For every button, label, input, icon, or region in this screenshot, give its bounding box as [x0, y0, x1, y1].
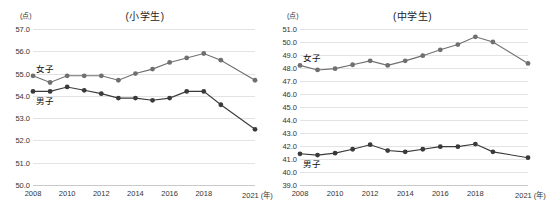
- y-axis-tick-label: 45.0: [282, 103, 297, 112]
- data-point-男子: [455, 144, 460, 149]
- y-axis-tick-label: 53.0: [15, 114, 30, 123]
- series-label-joshi-elementary: 女子: [36, 62, 54, 74]
- data-point-男子: [65, 85, 70, 90]
- data-point-女子: [385, 63, 390, 68]
- data-point-男子: [368, 142, 373, 147]
- x-axis-tick-label: 2014: [127, 189, 144, 198]
- data-point-女子: [315, 68, 320, 73]
- data-point-男子: [116, 96, 121, 101]
- x-axis-tick-label: 2010: [327, 189, 344, 198]
- chart-title-junior-high: (中学生): [270, 8, 539, 23]
- gridline: [300, 185, 528, 186]
- data-point-女子: [201, 51, 206, 56]
- x-axis-tick-label: 2008: [292, 189, 309, 198]
- x-axis-tick-label: 2018: [195, 189, 212, 198]
- y-axis-tick-label: 44.0: [282, 116, 297, 125]
- series-line-女子: [33, 54, 255, 83]
- data-point-男子: [201, 89, 206, 94]
- x-axis-tick-label: 2016: [432, 189, 449, 198]
- data-point-女子: [455, 42, 460, 47]
- y-axis-tick-label: 40.0: [282, 168, 297, 177]
- data-point-女子: [218, 58, 223, 63]
- x-axis-tick-label: 2014: [397, 189, 414, 198]
- data-point-男子: [491, 149, 496, 154]
- series-lines-junior-high: [300, 29, 528, 185]
- data-point-女子: [298, 63, 303, 68]
- data-point-女子: [491, 40, 496, 45]
- data-point-男子: [48, 89, 53, 94]
- data-point-女子: [438, 47, 443, 52]
- y-axis-unit-elementary: (点): [20, 10, 32, 20]
- plot-area-junior-high: 39.040.041.042.043.044.045.046.047.048.0…: [300, 29, 528, 185]
- gridline: [33, 185, 255, 186]
- data-point-女子: [253, 78, 258, 83]
- data-point-男子: [385, 148, 390, 153]
- data-point-女子: [133, 71, 138, 76]
- y-axis-tick-label: 52.0: [15, 136, 30, 145]
- series-lines-elementary: [33, 29, 255, 185]
- data-point-女子: [116, 78, 121, 83]
- data-point-男子: [253, 127, 258, 132]
- data-point-男子: [99, 91, 104, 96]
- data-point-男子: [473, 142, 478, 147]
- x-axis-tick-label: 2010: [59, 189, 76, 198]
- series-line-男子: [33, 87, 255, 129]
- y-axis-tick-label: 46.0: [282, 90, 297, 99]
- data-point-男子: [31, 89, 36, 94]
- y-axis-tick-label: 57.0: [15, 25, 30, 34]
- x-axis-tick-label: 2016: [161, 189, 178, 198]
- data-point-女子: [99, 73, 104, 78]
- x-axis-tick-label: 2021 (年): [515, 189, 546, 200]
- data-point-男子: [218, 102, 223, 107]
- data-point-女子: [167, 60, 172, 65]
- data-point-女子: [65, 73, 70, 78]
- data-point-女子: [420, 53, 425, 58]
- data-point-女子: [184, 56, 189, 61]
- y-axis-tick-label: 47.0: [282, 77, 297, 86]
- chart-panel-junior-high: (中学生) (点) 39.040.041.042.043.044.045.046…: [270, 0, 539, 213]
- x-axis-tick-label: 2012: [362, 189, 379, 198]
- y-axis-tick-label: 55.0: [15, 69, 30, 78]
- data-point-女子: [333, 66, 338, 71]
- y-axis-tick-label: 51.0: [282, 25, 297, 34]
- x-axis-tick-label: 2018: [467, 189, 484, 198]
- y-axis-tick-label: 43.0: [282, 129, 297, 138]
- data-point-女子: [31, 73, 36, 78]
- data-point-男子: [82, 88, 87, 93]
- x-axis-tick-label: 2008: [25, 189, 42, 198]
- chart-panel-elementary: (小学生) (点) 50.051.052.053.054.055.056.057…: [0, 0, 270, 213]
- data-point-女子: [48, 80, 53, 85]
- data-point-男子: [184, 89, 189, 94]
- data-point-女子: [473, 34, 478, 39]
- data-point-女子: [350, 62, 355, 67]
- y-axis-tick-label: 54.0: [15, 91, 30, 100]
- y-axis-tick-label: 56.0: [15, 47, 30, 56]
- y-axis-tick-label: 48.0: [282, 64, 297, 73]
- data-point-男子: [298, 151, 303, 156]
- data-point-男子: [438, 144, 443, 149]
- data-point-女子: [403, 58, 408, 63]
- data-point-男子: [526, 155, 531, 160]
- data-point-男子: [350, 147, 355, 152]
- data-point-男子: [150, 98, 155, 103]
- y-axis-tick-label: 49.0: [282, 51, 297, 60]
- y-axis-tick-label: 50.0: [282, 38, 297, 47]
- series-label-danshi-junior-high: 男子: [303, 157, 321, 169]
- series-label-joshi-junior-high: 女子: [303, 51, 321, 63]
- data-point-男子: [167, 96, 172, 101]
- data-point-男子: [133, 96, 138, 101]
- data-point-男子: [333, 151, 338, 156]
- data-point-女子: [526, 61, 531, 66]
- data-point-女子: [150, 67, 155, 72]
- data-point-女子: [82, 73, 87, 78]
- series-label-danshi-elementary: 男子: [36, 94, 54, 106]
- y-axis-unit-junior-high: (点): [287, 10, 299, 20]
- chart-title-elementary: (小学生): [0, 8, 270, 23]
- plot-area-elementary: 50.051.052.053.054.055.056.057.0 2008201…: [33, 29, 255, 185]
- y-axis-tick-label: 42.0: [282, 142, 297, 151]
- x-axis-tick-label: 2021 (年): [242, 189, 273, 200]
- x-axis-tick-label: 2012: [93, 189, 110, 198]
- y-axis-tick-label: 51.0: [15, 158, 30, 167]
- data-point-男子: [420, 147, 425, 152]
